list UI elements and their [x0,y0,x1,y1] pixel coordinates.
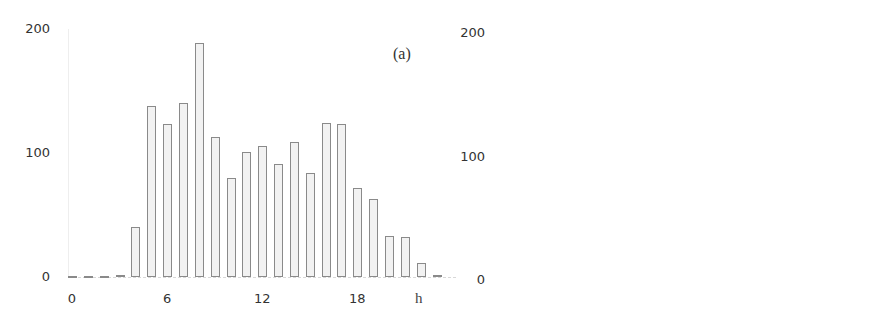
x-tick-label: 0 [57,292,87,306]
histogram-bar [242,152,251,277]
chart-a: 0100200061218(a)h [0,0,445,329]
panel-label: (a) [393,45,411,63]
histogram-bar [353,188,362,277]
histogram-bar [116,275,125,277]
histogram-bar [274,164,283,277]
histogram-bar [337,124,346,277]
x-tick-label: 12 [247,292,277,306]
y-tick-label: 200 [445,26,485,40]
x-tick-label: 6 [152,292,182,306]
x-axis-baseline [68,277,456,278]
y-tick-label: 0 [10,270,50,284]
histogram-bar [100,276,109,278]
histogram-bar [385,236,394,277]
histogram-bar [322,123,331,277]
x-axis-label: h [415,290,423,307]
histogram-bar [147,106,156,277]
histogram-bar [433,275,442,277]
histogram-bar [163,124,172,277]
histogram-bar [290,142,299,277]
histogram-bar [179,103,188,277]
y-tick-label: 0 [445,273,485,287]
histogram-bar [211,137,220,277]
y-axis-line [68,29,69,277]
histogram-bar [401,237,410,277]
histogram-bar [369,199,378,277]
histogram-bar [68,276,77,278]
x-tick-label: 18 [342,292,372,306]
y-tick-label: 100 [10,146,50,160]
y-tick-label: 100 [445,150,485,164]
histogram-bar [195,43,204,277]
histogram-bar [306,173,315,277]
histogram-bar [258,146,267,277]
histogram-bar [417,263,426,277]
chart-b: 0100200061218(b)h [445,0,890,329]
histogram-bar [131,227,140,277]
histogram-bar [84,276,93,278]
histogram-bar [227,178,236,277]
y-tick-label: 200 [10,22,50,36]
